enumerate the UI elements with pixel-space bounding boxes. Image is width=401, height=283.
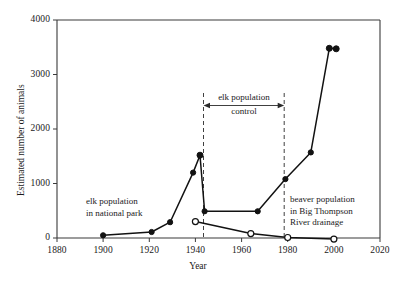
annotation-elk-control-line2-wrap: control <box>204 106 284 118</box>
y-axis-title: Estimated number of animals <box>16 84 26 196</box>
annotation-control-line1: elk population <box>204 92 284 104</box>
x-tick-label-1980: 1980 <box>272 245 304 255</box>
y-tick-label-0: 0 <box>22 232 50 242</box>
annotation-elk-control: elk population <box>204 92 284 104</box>
annotation-elk-line2: in national park <box>86 208 142 220</box>
x-axis-title: Year <box>189 261 207 271</box>
annotation-control-line2: control <box>204 106 284 118</box>
annotation-elk-population: elk population in national park <box>86 196 142 219</box>
annotation-beaver-population: beaver population in Big Thompson River … <box>290 194 355 229</box>
chart-plot-area <box>0 0 401 283</box>
x-tick-label-1880: 1880 <box>41 245 73 255</box>
annotation-beaver-line2: in Big Thompson <box>290 206 355 218</box>
x-tick-label-2020: 2020 <box>364 245 396 255</box>
y-tick-marks <box>53 20 57 238</box>
annotation-beaver-line1: beaver population <box>290 194 355 206</box>
y-tick-label-4000: 4000 <box>22 14 50 24</box>
y-tick-label-2000: 2000 <box>22 123 50 133</box>
x-tick-label-1900: 1900 <box>87 245 119 255</box>
x-tick-label-1960: 1960 <box>226 245 258 255</box>
x-tick-label-2000: 2000 <box>318 245 350 255</box>
y-tick-label-3000: 3000 <box>22 69 50 79</box>
y-tick-label-1000: 1000 <box>22 178 50 188</box>
figure-container: 4000 3000 2000 1000 0 1880 1900 1920 194… <box>0 0 401 283</box>
annotation-beaver-line3: River drainage <box>290 217 355 229</box>
x-tick-label-1920: 1920 <box>133 245 165 255</box>
annotation-elk-line1: elk population <box>86 196 142 208</box>
x-tick-label-1940: 1940 <box>179 245 211 255</box>
